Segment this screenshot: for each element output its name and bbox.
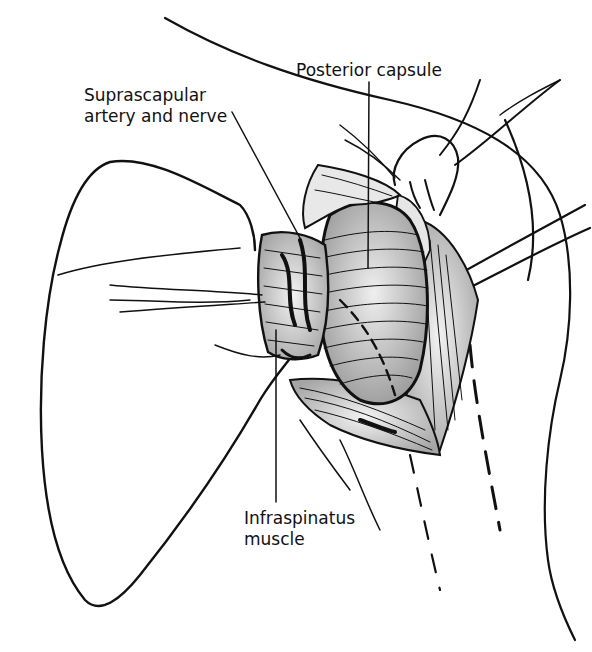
label-infraspinatus-muscle: Infraspinatus muscle <box>244 508 355 550</box>
label-suprascapular-artery-nerve: Suprascapular artery and nerve <box>84 85 227 127</box>
leader-suprascapular <box>232 112 300 238</box>
leader-posterior-capsule <box>368 82 369 268</box>
shoulder-illustration: Posterior capsule Suprascapular artery a… <box>0 0 592 652</box>
label-posterior-capsule: Posterior capsule <box>296 60 442 81</box>
infraspinatus-flap <box>258 232 328 359</box>
